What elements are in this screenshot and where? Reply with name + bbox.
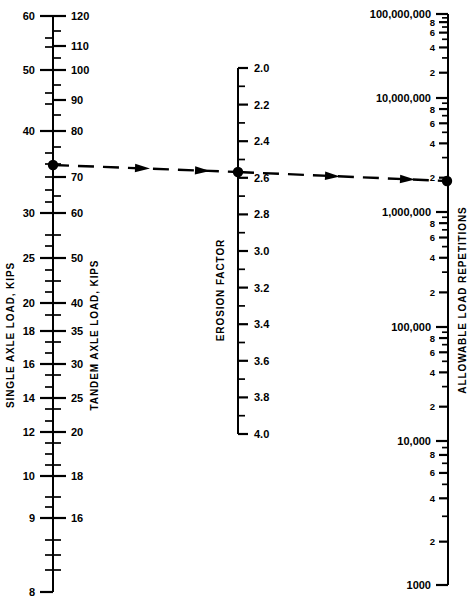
single-axle-tick-label: 10: [23, 470, 35, 482]
load-repetitions-decade-label: 1,000,000: [382, 206, 431, 218]
load-repetitions-minor-label: 4: [430, 42, 436, 53]
load-repetitions-decade-label: 10,000,000: [376, 92, 431, 104]
solution-arrow-head: [325, 172, 340, 181]
tandem-axle-tick-label: 60: [71, 207, 83, 219]
single-axle-tick-label: 8: [29, 586, 35, 598]
erosion-factor-tick-label: 3.2: [254, 282, 269, 294]
erosion-factor-tick-label: 3.8: [254, 391, 269, 403]
load-repetitions-minor-label: 4: [430, 252, 436, 263]
load-repetitions-minor-label: 2: [430, 287, 435, 298]
solution-pivot-dot: [442, 176, 452, 186]
tandem-axle-tick-label: 20: [71, 426, 83, 438]
load-repetitions-minor-label: 4: [430, 367, 436, 378]
load-repetitions-decade-label: 1000: [407, 579, 431, 591]
tandem-axle-tick-label: 30: [71, 358, 83, 370]
load-repetitions-axis-title: ALLOWABLE LOAD REPETITIONS: [457, 206, 468, 393]
single-axle-tick-label: 14: [23, 392, 36, 404]
single-axle-tick-label: 25: [23, 252, 35, 264]
tandem-axle-tick-label: 16: [71, 512, 83, 524]
erosion-factor-tick-label: 2.2: [254, 99, 269, 111]
load-repetitions-minor-label: 8: [430, 333, 435, 344]
nomograph-figure: 6050403025201816141210981201101009080706…: [0, 0, 475, 605]
load-repetitions-minor-label: 6: [430, 467, 435, 478]
load-repetitions-decade-label: 100,000,000: [370, 8, 431, 20]
load-repetitions-minor-label: 2: [430, 536, 435, 547]
single-axle-tick-label: 9: [29, 512, 35, 524]
load-repetitions-minor-label: 8: [430, 104, 435, 115]
erosion-factor-tick-label: 2.8: [254, 208, 269, 220]
solution-pivot-dot: [48, 160, 58, 170]
arrow-head-icon: [195, 166, 210, 175]
solution-arrow-head: [195, 166, 210, 175]
tandem-axle-tick-label: 100: [71, 64, 89, 76]
single-axle-tick-label: 12: [23, 426, 35, 438]
single-axle-axis-title: SINGLE AXLE LOAD, KIPS: [5, 262, 16, 408]
arrow-head-icon: [135, 164, 150, 173]
tandem-axle-tick-label: 40: [71, 297, 83, 309]
load-repetitions-minor-label: 6: [430, 27, 435, 38]
erosion-factor-tick-label: 3.6: [254, 355, 269, 367]
load-repetitions-minor-label: 2: [430, 172, 435, 183]
load-repetitions-minor-label: 8: [430, 449, 435, 460]
solution-pivot-dot: [233, 167, 243, 177]
solution-line-segment: [238, 172, 447, 181]
single-axle-tick-label: 50: [23, 64, 35, 76]
tandem-axle-tick-label: 50: [71, 252, 83, 264]
solution-arrow-head: [135, 164, 150, 173]
tandem-axle-tick-label: 110: [71, 40, 89, 52]
load-repetitions-decade-label: 100,000: [391, 321, 431, 333]
load-repetitions-minor-label: 4: [430, 493, 436, 504]
tandem-axle-tick-label: 18: [71, 470, 83, 482]
tandem-axle-tick-label: 25: [71, 392, 83, 404]
single-axle-tick-label: 60: [23, 10, 35, 22]
tandem-axle-tick-label: 90: [71, 94, 83, 106]
load-repetitions-minor-label: 8: [430, 218, 435, 229]
tandem-axle-tick-label: 35: [71, 325, 83, 337]
erosion-factor-tick-label: 3.0: [254, 245, 269, 257]
tandem-axle-tick-label: 80: [71, 125, 83, 137]
erosion-factor-tick-label: 4.0: [254, 428, 269, 440]
erosion-factor-axis-title: EROSION FACTOR: [215, 239, 226, 341]
erosion-factor-tick-label: 2.0: [254, 62, 269, 74]
single-axle-tick-label: 16: [23, 358, 35, 370]
single-axle-tick-label: 20: [23, 297, 35, 309]
load-repetitions-decade-label: 10,000: [397, 435, 431, 447]
tandem-axle-tick-label: 70: [71, 171, 83, 183]
erosion-factor-tick-label: 3.4: [254, 318, 270, 330]
load-repetitions-minor-label: 4: [430, 138, 436, 149]
load-repetitions-minor-label: 2: [430, 401, 435, 412]
tandem-axle-tick-label: 120: [71, 10, 89, 22]
single-axle-tick-label: 18: [23, 325, 35, 337]
load-repetitions-minor-label: 8: [430, 17, 435, 28]
tandem-axle-axis-title: TANDEM AXLE LOAD, KIPS: [89, 260, 100, 411]
load-repetitions-minor-label: 6: [430, 232, 435, 243]
solution-arrow-head: [400, 175, 415, 184]
erosion-factor-tick-label: 2.4: [254, 135, 270, 147]
nomograph-canvas: 6050403025201816141210981201101009080706…: [0, 0, 475, 605]
single-axle-tick-label: 40: [23, 125, 35, 137]
single-axle-tick-label: 30: [23, 207, 35, 219]
load-repetitions-minor-label: 6: [430, 347, 435, 358]
load-repetitions-minor-label: 2: [430, 67, 435, 78]
arrow-head-icon: [325, 172, 340, 181]
arrow-head-icon: [400, 175, 415, 184]
load-repetitions-minor-label: 6: [430, 118, 435, 129]
